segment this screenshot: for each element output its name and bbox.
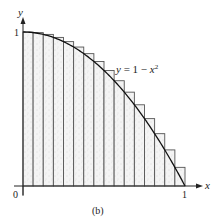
riemann-rectangle bbox=[84, 54, 94, 186]
riemann-rectangle bbox=[53, 37, 63, 186]
y-axis-label: y bbox=[17, 6, 23, 18]
riemann-rectangle bbox=[165, 150, 175, 186]
riemann-rectangle bbox=[94, 61, 104, 186]
x-axis-arrow-icon bbox=[196, 184, 203, 189]
riemann-rectangle bbox=[124, 92, 134, 186]
riemann-rectangle bbox=[33, 33, 43, 186]
riemann-sum-diagram: y x 1 0 1 y = 1 − x2 (b) bbox=[0, 0, 220, 224]
caption: (b) bbox=[92, 205, 104, 217]
riemann-rectangles bbox=[23, 32, 185, 186]
y-axis-arrow-icon bbox=[21, 17, 26, 24]
x-axis-label: x bbox=[204, 179, 210, 191]
y-tick-label-1: 1 bbox=[14, 27, 19, 38]
x-tick-label-1: 1 bbox=[182, 189, 187, 200]
function-label: y = 1 − x2 bbox=[115, 63, 159, 75]
riemann-rectangle bbox=[43, 34, 53, 186]
x-tick-label-0: 0 bbox=[13, 189, 18, 200]
riemann-rectangle bbox=[23, 32, 33, 186]
riemann-rectangle bbox=[104, 71, 114, 187]
riemann-rectangle bbox=[74, 47, 84, 186]
riemann-rectangle bbox=[145, 119, 155, 186]
riemann-rectangle bbox=[64, 42, 74, 186]
riemann-rectangle bbox=[114, 81, 124, 186]
